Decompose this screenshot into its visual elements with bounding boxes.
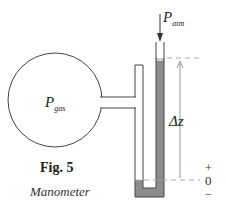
figure-number: Fig. 5 xyxy=(40,160,73,175)
manometer-fluid xyxy=(135,58,164,197)
manometer-diagram: Pgas Patm Δz + 0 − Fig. 5 Manometer xyxy=(0,0,226,215)
figure-caption: Manometer xyxy=(29,184,91,199)
connector-pipe xyxy=(100,97,137,108)
scale-minus: − xyxy=(205,187,212,201)
u-tube-inner xyxy=(143,42,156,188)
atm-arrow-head xyxy=(157,33,163,42)
gas-vessel xyxy=(8,53,102,147)
delta-z-label: Δz xyxy=(168,113,184,129)
atm-pressure-label: Patm xyxy=(162,9,184,28)
scale-zero: 0 xyxy=(205,173,212,188)
fluid-meniscus xyxy=(157,58,163,61)
